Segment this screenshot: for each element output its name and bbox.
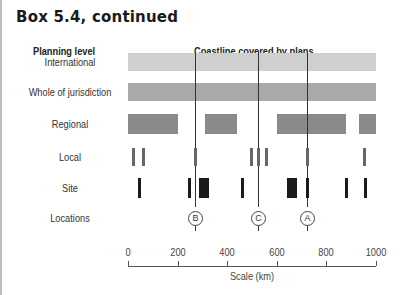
axis-tick <box>376 261 377 266</box>
row-label: Whole of jurisdiction <box>29 86 112 98</box>
site-plan-mark <box>364 178 367 198</box>
site-plan-mark <box>138 178 141 198</box>
local-plan-mark <box>132 148 135 166</box>
location-marker-C: C <box>251 211 266 226</box>
local-plan-mark <box>265 148 268 166</box>
row-label: Site <box>62 182 78 194</box>
site-plan-mark <box>241 178 244 198</box>
coverage-bar <box>128 83 376 101</box>
site-plan-mark <box>294 178 297 198</box>
location-line <box>258 52 259 207</box>
axis-tick-label: 200 <box>170 246 185 258</box>
left-border-rule <box>0 0 2 295</box>
axis-title: Scale (km) <box>230 270 274 282</box>
axis-tick <box>128 261 129 266</box>
coverage-bar <box>128 114 178 134</box>
coverage-bar <box>128 53 376 71</box>
axis-tick <box>277 261 278 266</box>
axis-tick-label: 600 <box>269 246 284 258</box>
local-plan-mark <box>250 148 253 166</box>
axis-tick-label: 400 <box>219 246 234 258</box>
local-plan-mark <box>306 148 309 166</box>
site-plan-mark <box>306 178 309 198</box>
location-marker-B: B <box>188 211 203 226</box>
coverage-bar <box>205 114 237 134</box>
site-plan-mark <box>345 178 348 198</box>
local-plan-mark <box>363 148 366 166</box>
local-plan-mark <box>257 148 260 166</box>
site-plan-mark <box>206 178 209 198</box>
coverage-bar <box>359 114 376 134</box>
axis-tick <box>178 261 179 266</box>
site-plan-mark <box>188 178 191 198</box>
axis-tick-label: 0 <box>125 246 130 258</box>
row-label: Regional <box>52 118 88 130</box>
row-label: International <box>45 56 96 68</box>
row-label: Local <box>59 151 81 163</box>
local-plan-mark <box>142 148 145 166</box>
coverage-bar <box>277 114 346 134</box>
axis-tick-label: 1000 <box>366 246 387 258</box>
local-plan-mark <box>194 148 197 166</box>
axis-tick <box>326 261 327 266</box>
box-title: Box 5.4, continued <box>16 8 178 26</box>
axis-tick-label: 800 <box>318 246 333 258</box>
location-line <box>195 52 196 207</box>
axis-tick <box>227 261 228 266</box>
row-label: Locations <box>50 212 90 224</box>
scale-axis <box>128 266 376 267</box>
location-marker-A: A <box>300 211 315 226</box>
